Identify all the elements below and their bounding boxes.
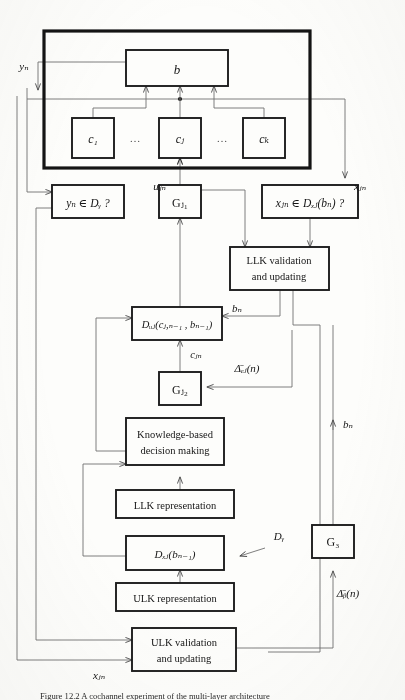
label-kbdm-line2: decision making	[140, 445, 210, 456]
wire-ck-to-b	[214, 86, 264, 118]
wire-llkval-to-duj	[222, 290, 280, 316]
label-c1: c₁	[88, 132, 98, 146]
label-g3: G₃	[327, 535, 340, 549]
edge-label-delta-b: Δ̄ᵦ(n)	[336, 587, 360, 600]
label-yn-test: yₙ ∈ Dᵧ ?	[65, 197, 110, 210]
ellipsis-left: …	[130, 132, 141, 144]
edge-label-bn-mid: bₙ	[232, 302, 242, 314]
label-b: b	[174, 62, 181, 77]
box-knowledge-based-decision-making	[126, 418, 224, 465]
wire-dy-to-dxj	[240, 548, 265, 556]
label-ulk-representation: ULK representation	[133, 593, 217, 604]
label-ulk-validation-line2: and updating	[157, 653, 212, 664]
wire-llkval-long-right	[268, 325, 320, 652]
label-xjn-test: xⱼₙ ∈ Dₓⱼ(bₙ) ?	[275, 197, 345, 210]
label-duj: Dᵤⱼ(cⱼ,ₙ₋₁ , bₙ₋₁)	[141, 319, 213, 331]
edge-label-cjn: cⱼₙ	[190, 349, 202, 360]
wire-c1-to-b	[93, 86, 146, 118]
label-llk-representation: LLK representation	[134, 500, 217, 511]
edge-label-ujn: uⱼₙ	[153, 180, 166, 192]
label-dxj: Dₓⱼ(bₙ₋₁)	[154, 548, 196, 561]
label-kbdm-line1: Knowledge-based	[137, 429, 214, 440]
box-llk-validation	[230, 247, 329, 290]
ellipsis-right: …	[217, 132, 228, 144]
figure-page: b c₁ cⱼ cₖ … … yₙ ∈ Dᵧ ? Gⱼ₁ xⱼₙ ∈ Dₓⱼ(b…	[0, 0, 405, 700]
label-cj: cⱼ	[176, 132, 185, 146]
box-ulk-validation	[132, 628, 236, 671]
edge-label-xjn-bottom: xⱼₙ	[92, 669, 105, 681]
label-llk-validation-line2: and updating	[252, 271, 307, 282]
edge-label-dy: Dᵧ	[273, 530, 285, 542]
edge-label-delta-cj: Δ̄ₑⱼ(n)	[233, 362, 259, 375]
figure-caption: Figure 12.2 A cochannel experiment of th…	[40, 691, 270, 700]
label-llk-validation-line1: LLK validation	[246, 255, 312, 266]
architecture-diagram: b c₁ cⱼ cₖ … … yₙ ∈ Dᵧ ? Gⱼ₁ xⱼₙ ∈ Dₓⱼ(b…	[0, 0, 405, 700]
wire-ynbox-to-ulkval-high	[36, 208, 132, 640]
edge-label-yn: yₙ	[18, 60, 28, 72]
label-gj1: Gⱼ₁	[172, 196, 188, 210]
wire-farleft-to-ulkval-low	[17, 96, 132, 660]
edge-label-xjn-top: xⱼₙ	[353, 180, 366, 192]
label-ulk-validation-line1: ULK validation	[151, 637, 218, 648]
edge-label-bn-right: bₙ	[343, 418, 353, 430]
label-gj2: Gⱼ₂	[172, 383, 188, 397]
label-ck: cₖ	[259, 132, 269, 146]
